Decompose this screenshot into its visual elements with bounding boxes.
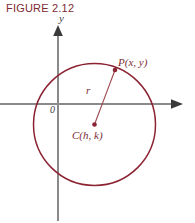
center-point-dot	[92, 122, 97, 127]
radius-segment	[95, 70, 116, 125]
arrow-up-icon	[53, 25, 63, 36]
center-c-label: C(h, k)	[72, 129, 103, 141]
arrow-right-icon	[171, 99, 183, 109]
radius-label: r	[86, 84, 90, 96]
circle-point-dot	[113, 68, 118, 73]
point-p-label: P(x, y)	[118, 56, 147, 68]
geometry-diagram	[0, 0, 195, 223]
y-axis-label: y	[59, 12, 64, 24]
figure-container: FIGURE 2.12 y 0 P(x, y) r C(h, k)	[0, 0, 195, 223]
origin-label: 0	[50, 104, 55, 115]
